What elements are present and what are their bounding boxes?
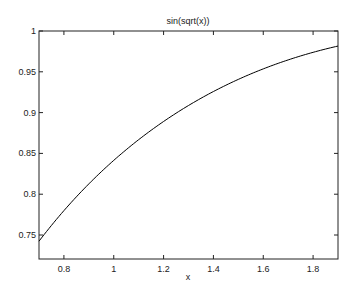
y-tick-label: 0.75 (18, 230, 36, 240)
y-tick-label: 1 (31, 26, 36, 36)
line-chart: sin(sqrt(x)) 0.811.21.41.61.8 0.750.80.8… (0, 0, 356, 298)
x-axis-label: x (186, 272, 191, 282)
y-tick-label: 0.95 (18, 67, 36, 77)
y-tick-label: 0.9 (23, 108, 36, 118)
y-tick-label: 0.85 (18, 148, 36, 158)
plot-area (39, 31, 338, 259)
x-tick-label: 1.8 (307, 264, 320, 274)
x-tick-label: 1 (111, 264, 116, 274)
x-tick-label: 1.2 (157, 264, 170, 274)
y-tick-label: 0.8 (23, 189, 36, 199)
x-axis: 0.811.21.41.61.8 (58, 31, 320, 274)
x-tick-label: 1.4 (207, 264, 220, 274)
data-line (39, 46, 338, 241)
chart-title: sin(sqrt(x)) (167, 16, 210, 26)
x-tick-label: 1.6 (257, 264, 270, 274)
x-tick-label: 0.8 (58, 264, 71, 274)
